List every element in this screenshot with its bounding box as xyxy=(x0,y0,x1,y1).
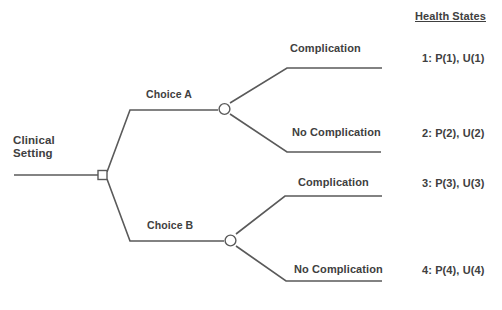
edge-b-complication xyxy=(236,196,382,234)
decision-tree-diagram: Clinical Setting Health States Choice A … xyxy=(0,0,502,310)
chance-node-choice-b[interactable] xyxy=(225,235,236,246)
health-state-3: 3: P(3), U(3) xyxy=(422,177,484,190)
health-state-1: 1: P(1), U(1) xyxy=(422,52,484,65)
edge-choice-a xyxy=(107,110,218,172)
outcome-label-a-complication: Complication xyxy=(290,42,361,55)
decision-node-square[interactable] xyxy=(98,171,107,180)
outcome-label-a-no-complication: No Complication xyxy=(292,126,381,139)
health-states-header: Health States xyxy=(415,10,486,23)
outcome-label-b-complication: Complication xyxy=(298,176,369,189)
choice-b-label: Choice B xyxy=(147,219,193,232)
edge-a-complication xyxy=(230,68,382,103)
health-state-2: 2: P(2), U(2) xyxy=(422,127,484,140)
outcome-label-b-no-complication: No Complication xyxy=(294,263,383,276)
chance-node-choice-a[interactable] xyxy=(219,104,230,115)
root-label: Clinical Setting xyxy=(13,134,55,160)
health-state-4: 4: P(4), U(4) xyxy=(422,264,484,277)
choice-a-label: Choice A xyxy=(146,88,192,101)
